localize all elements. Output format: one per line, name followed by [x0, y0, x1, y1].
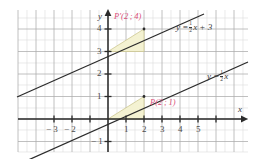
y-tick-label-3: 3 — [97, 47, 102, 56]
lower-eq-head: y = — [207, 71, 219, 81]
x-axis-label: x — [238, 105, 242, 114]
upper-line-equation: y =12x + 3 — [176, 21, 212, 34]
upper-eq-denominator: 2 — [189, 27, 192, 34]
y-axis-label: y — [98, 12, 102, 21]
upper-eq-numerator: 1 — [189, 21, 192, 27]
y-tick-label-minus-1: − 1 — [91, 137, 103, 146]
x-tick-label-2: 2 — [142, 125, 147, 134]
x-tick-label-4: 4 — [178, 125, 183, 134]
point-p-marker — [143, 95, 146, 98]
x-axis-arrow — [241, 116, 248, 123]
upper-eq-tail: x + 3 — [193, 22, 212, 32]
x-tick-label-3: 3 — [160, 125, 165, 134]
x-tick-label-1: 1 — [124, 125, 129, 134]
lower-eq-tail: x — [224, 71, 228, 81]
upper-eq-head: y = — [176, 22, 188, 32]
y-axis-arrow — [105, 9, 112, 16]
upper-eq-fraction: 12 — [189, 21, 192, 34]
lower-eq-denominator: 2 — [220, 76, 223, 83]
point-p-prime-label: P′(2 ; 4) — [114, 12, 141, 21]
y-tick-label-1: 1 — [97, 92, 102, 101]
x-tick-label-minus-2: − 2 — [64, 125, 76, 134]
lower-eq-numerator: 1 — [220, 70, 223, 76]
point-p-prime-marker — [143, 28, 146, 31]
lower-line-equation: y =12x — [207, 70, 228, 83]
x-tick-label-5: 5 — [196, 125, 201, 134]
y-tick-label-2: 2 — [97, 69, 102, 78]
x-tick-label-minus-3: − 3 — [46, 125, 58, 134]
point-p-label: P(2 ; 1) — [150, 98, 176, 107]
lower-eq-fraction: 12 — [220, 70, 223, 83]
y-tick-label-4: 4 — [97, 24, 102, 33]
coordinate-graph-figure: y x 4 3 2 1 − 1 − 3 − 2 1 2 3 4 5 y =12x… — [0, 0, 258, 159]
